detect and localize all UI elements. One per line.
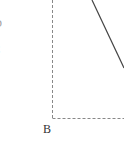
left-edge-label-partial-1: D [0,18,2,29]
vertex-label-b: B [43,123,51,135]
geometry-diagram [0,0,124,148]
solid-diagonal-line [92,0,124,68]
